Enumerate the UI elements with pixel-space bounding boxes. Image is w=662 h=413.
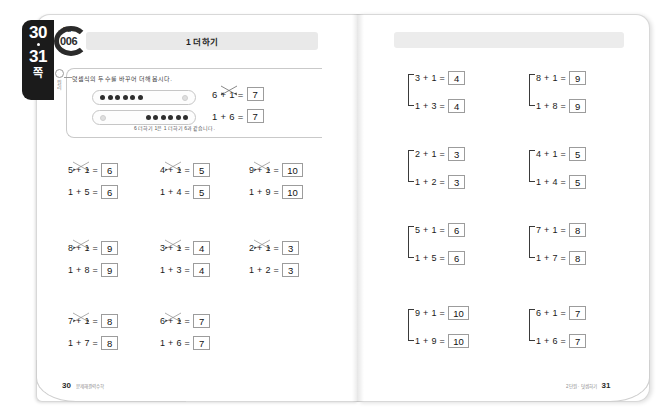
problem-expr-top: 4 + 1 = — [536, 149, 566, 159]
problem-answer-top[interactable]: 8 — [101, 314, 118, 328]
problem-answer-top[interactable]: 6 — [448, 223, 465, 237]
problem-expr-top: 6 + 1 = — [536, 308, 566, 318]
problem-l-r3-c2: 6 + 1 = 7 1 + 6 = 7 — [160, 313, 210, 351]
problem-answer-top[interactable]: 4 — [193, 241, 210, 255]
problem-gap — [529, 321, 586, 333]
pair-bracket — [408, 226, 414, 258]
problem-expr-top: 9 + 1 = — [249, 165, 279, 175]
problem-r-r3-c1: 5 + 1 = 6 1 + 5 = 6 — [408, 222, 465, 266]
problem-answer-bottom[interactable]: 7 — [193, 336, 210, 350]
problem-line-top: 3 + 1 = 4 — [415, 70, 465, 86]
example-answer-top[interactable]: 7 — [247, 87, 264, 101]
problem-answer-bottom[interactable]: 9 — [569, 99, 586, 113]
problem-answer-top[interactable]: 9 — [569, 71, 586, 85]
problem-expr-top: 9 + 1 = — [415, 308, 445, 318]
problem-answer-bottom[interactable]: 7 — [569, 334, 586, 348]
problem-expr-top: 2 + 1 = — [415, 149, 445, 159]
problem-expr-bottom: 1 + 8 = — [536, 101, 566, 111]
problem-line-top: 6 + 1 = 7 — [160, 313, 210, 329]
problem-answer-bottom[interactable]: 6 — [101, 185, 118, 199]
pair-bracket — [408, 150, 414, 182]
problem-expr-bottom: 1 + 8 = — [68, 265, 98, 275]
problem-answer-top[interactable]: 10 — [448, 306, 469, 320]
problem-line-top: 4 + 1 = 5 — [160, 162, 210, 178]
problem-line-bottom: 1 + 9 = 10 — [249, 184, 303, 200]
example-expr-top: 6 + 1 = — [212, 89, 244, 100]
pair-bracket — [529, 226, 535, 258]
dot-group-filled-top — [100, 95, 143, 100]
problem-expr-bottom: 1 + 3 = — [415, 101, 445, 111]
problem-answer-bottom[interactable]: 4 — [448, 99, 465, 113]
problem-line-bottom: 1 + 4 = 5 — [160, 184, 210, 200]
problem-answer-top[interactable]: 3 — [448, 147, 465, 161]
problem-line-top: 7 + 1 = 8 — [68, 313, 118, 329]
problem-answer-bottom[interactable]: 9 — [101, 263, 118, 277]
problem-gap — [529, 238, 586, 250]
problem-answer-bottom[interactable]: 6 — [448, 251, 465, 265]
unit-number-badge: 단원 006 — [54, 26, 88, 56]
problem-expr-bottom: 1 + 7 = — [536, 253, 566, 263]
footer-label-left: 문제해결력수학 — [76, 383, 104, 389]
problem-line-top: 2 + 1 = 3 — [415, 146, 465, 162]
left-page-curl — [36, 360, 186, 402]
page-tab-dot — [37, 43, 40, 46]
problem-answer-top[interactable]: 9 — [101, 241, 118, 255]
problem-answer-top[interactable]: 5 — [569, 147, 586, 161]
problem-line-bottom: 1 + 4 = 5 — [536, 174, 586, 190]
problem-answer-top[interactable]: 5 — [193, 163, 210, 177]
problem-expr-bottom: 1 + 5 = — [68, 187, 98, 197]
problem-answer-bottom[interactable]: 8 — [101, 336, 118, 350]
problem-answer-bottom[interactable]: 10 — [448, 334, 469, 348]
problem-answer-bottom[interactable]: 5 — [193, 185, 210, 199]
problem-expr-top: 6 + 1 = — [160, 316, 190, 326]
footer-page-number-left: 30 — [62, 381, 71, 390]
dot-filled — [183, 115, 188, 120]
dot-light — [100, 115, 106, 121]
problem-answer-bottom[interactable]: 5 — [569, 175, 586, 189]
problem-answer-top[interactable]: 8 — [569, 223, 586, 237]
problem-line-top: 3 + 1 = 4 — [160, 240, 210, 256]
problem-answer-bottom[interactable]: 8 — [569, 251, 586, 265]
problem-line-bottom: 1 + 5 = 6 — [68, 184, 118, 200]
left-page-footer: 30 문제해결력수학 — [62, 381, 104, 390]
problem-gap — [408, 162, 465, 174]
problem-gap — [529, 162, 586, 174]
problem-answer-top[interactable]: 4 — [448, 71, 465, 85]
marker-circle-icon — [55, 69, 64, 78]
problem-answer-top[interactable]: 7 — [193, 314, 210, 328]
problem-line-top: 5 + 1 = 6 — [68, 162, 118, 178]
problem-line-top: 5 + 1 = 6 — [415, 222, 465, 238]
dot-row-bottom — [92, 110, 196, 125]
problem-answer-bottom[interactable]: 3 — [448, 175, 465, 189]
problem-line-top: 7 + 1 = 8 — [536, 222, 586, 238]
problem-answer-bottom[interactable]: 10 — [282, 185, 303, 199]
problem-answer-bottom[interactable]: 3 — [282, 263, 299, 277]
problem-answer-top[interactable]: 7 — [569, 306, 586, 320]
problem-expr-bottom: 1 + 4 = — [160, 187, 190, 197]
pair-bracket — [529, 150, 535, 182]
problem-answer-top[interactable]: 10 — [282, 163, 303, 177]
example-equation-bottom: 1 + 6 = 7 — [212, 108, 264, 124]
lesson-title-bar: 1 더하기 — [86, 32, 318, 50]
problem-expr-bottom: 1 + 6 = — [536, 336, 566, 346]
example-instruction-text: 덧셈식의 두 수를 바꾸어 더해 봅시다. — [72, 74, 172, 83]
problem-l-r2-c3: 2 + 1 = 3 1 + 2 = 3 — [249, 240, 299, 278]
problem-r-r3-c2: 7 + 1 = 8 1 + 7 = 8 — [529, 222, 586, 266]
page-tab-start: 30 — [22, 23, 54, 42]
problem-answer-top[interactable]: 3 — [282, 241, 299, 255]
example-answer-bottom[interactable]: 7 — [247, 109, 264, 123]
problem-line-bottom: 1 + 2 = 3 — [415, 174, 465, 190]
pair-bracket — [408, 309, 414, 341]
problem-gap — [408, 86, 465, 98]
problem-r-r2-c2: 4 + 1 = 5 1 + 4 = 5 — [529, 146, 586, 190]
problem-answer-top[interactable]: 6 — [101, 163, 118, 177]
problem-expr-bottom: 1 + 3 = — [160, 265, 190, 275]
problem-answer-bottom[interactable]: 4 — [193, 263, 210, 277]
problem-expr-top: 8 + 1 = — [68, 243, 98, 253]
problem-l-r2-c2: 3 + 1 = 4 1 + 3 = 4 — [160, 240, 210, 278]
problem-expr-top: 3 + 1 = — [160, 243, 190, 253]
problem-expr-bottom: 1 + 2 = — [249, 265, 279, 275]
problem-expr-bottom: 1 + 5 = — [415, 253, 445, 263]
problem-expr-bottom: 1 + 2 = — [415, 177, 445, 187]
problem-line-bottom: 1 + 5 = 6 — [415, 250, 465, 266]
